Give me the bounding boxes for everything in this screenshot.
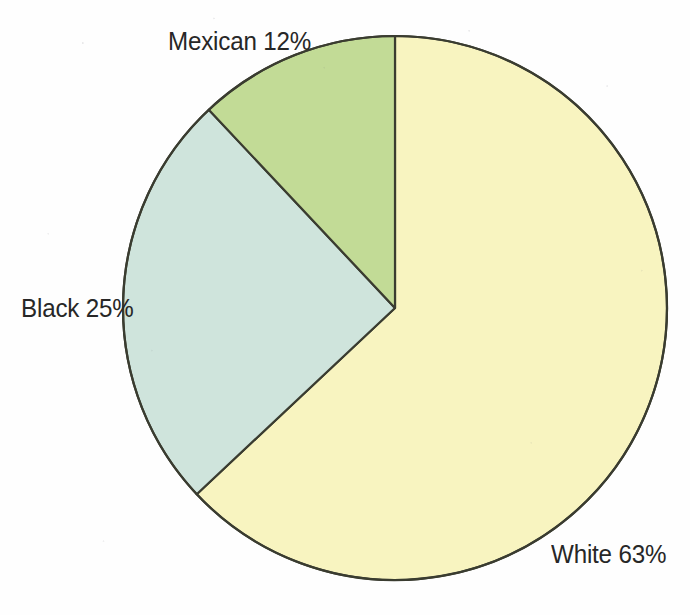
slice-label-black: Black 25% [21, 295, 134, 321]
pie-chart-figure: Mexican 12% Black 25% White 63% [0, 0, 690, 615]
pie-slices-group [123, 36, 667, 580]
slice-label-white: White 63% [551, 541, 666, 567]
slice-label-mexican: Mexican 12% [168, 28, 311, 54]
